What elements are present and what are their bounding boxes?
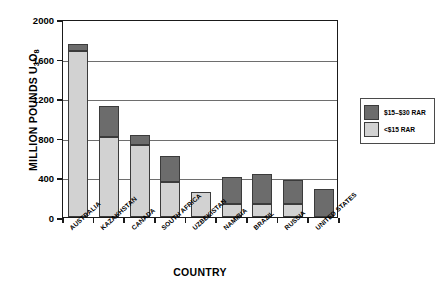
- legend-item-high-cost: $15–$30 RAR: [364, 105, 431, 120]
- x-tick-mark: [246, 218, 248, 223]
- uranium-resources-bar-chart: MILLION POUNDS U3O8 0400800120016002000 …: [0, 0, 441, 288]
- bar-south-africa: [160, 156, 180, 217]
- chart-legend: $15–$30 RAR <$15 RAR: [360, 98, 435, 144]
- y-tick-label: 800: [8, 133, 54, 144]
- x-tick-mark: [154, 218, 156, 223]
- bar-segment-high-cost: [283, 180, 303, 204]
- x-axis-title: COUNTRY: [0, 266, 400, 278]
- y-tick-label: 400: [8, 173, 54, 184]
- bar-segment-high-cost: [130, 135, 150, 145]
- plot-area: [62, 20, 338, 218]
- y-tick-label: 1600: [8, 54, 54, 65]
- bar-segment-low-cost: [130, 145, 150, 217]
- legend-label-high-cost: $15–$30 RAR: [384, 109, 426, 116]
- gridline: [63, 61, 337, 62]
- x-tick-mark: [277, 218, 279, 223]
- y-tick-label: 2000: [8, 15, 54, 26]
- gridline: [63, 100, 337, 101]
- bar-segment-low-cost: [68, 51, 88, 217]
- legend-label-low-cost: <$15 RAR: [384, 126, 415, 133]
- bar-kazakhstan: [99, 106, 119, 217]
- legend-swatch-low-cost: [364, 122, 379, 137]
- bar-segment-low-cost: [99, 137, 119, 217]
- x-tick-mark: [185, 218, 187, 223]
- legend-swatch-high-cost: [364, 105, 379, 120]
- bar-segment-high-cost: [99, 106, 119, 137]
- legend-item-low-cost: <$15 RAR: [364, 122, 431, 137]
- bar-segment-high-cost: [252, 174, 272, 204]
- x-tick-mark: [123, 218, 125, 223]
- y-axis-title-sub-8: 8: [32, 49, 41, 53]
- x-tick-mark: [93, 218, 95, 223]
- bar-australia: [68, 44, 88, 217]
- bar-segment-high-cost: [68, 44, 88, 51]
- x-tick-mark: [307, 218, 309, 223]
- y-axis-title-prefix: MILLION POUNDS U: [27, 66, 39, 171]
- y-tick-label: 1200: [8, 94, 54, 105]
- x-tick-mark: [215, 218, 217, 223]
- x-tick-mark: [338, 218, 340, 223]
- y-tick-label: 0: [8, 213, 54, 224]
- x-tick-mark: [62, 218, 64, 223]
- bar-segment-high-cost: [160, 156, 180, 182]
